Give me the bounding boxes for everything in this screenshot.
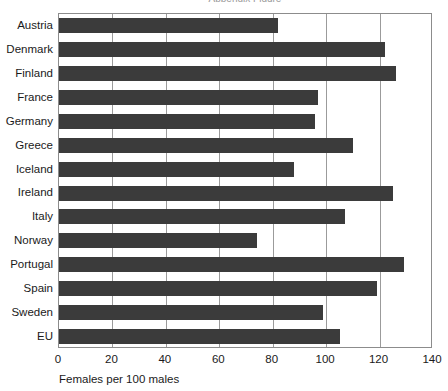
category-label-denmark: Denmark bbox=[0, 43, 53, 55]
category-label-eu: EU bbox=[0, 330, 53, 342]
bar-row bbox=[59, 253, 433, 277]
bar-row bbox=[59, 62, 433, 86]
category-label-iceland: Iceland bbox=[0, 163, 53, 175]
x-tick-60: 60 bbox=[198, 353, 238, 366]
bar-finland[interactable] bbox=[59, 66, 396, 81]
bar-row bbox=[59, 14, 433, 38]
x-tick-100: 100 bbox=[305, 353, 345, 366]
category-label-germany: Germany bbox=[0, 115, 53, 127]
category-label-greece: Greece bbox=[0, 139, 53, 151]
bar-eu[interactable] bbox=[59, 329, 340, 344]
bar-sweden[interactable] bbox=[59, 305, 323, 320]
bar-austria[interactable] bbox=[59, 18, 278, 33]
category-label-finland: Finland bbox=[0, 67, 53, 79]
category-label-norway: Norway bbox=[0, 234, 53, 246]
x-tick-140: 140 bbox=[412, 353, 448, 366]
bar-row bbox=[59, 205, 433, 229]
bar-row bbox=[59, 38, 433, 62]
bar-italy[interactable] bbox=[59, 209, 345, 224]
bar-norway[interactable] bbox=[59, 233, 257, 248]
bar-ireland[interactable] bbox=[59, 186, 393, 201]
x-tick-20: 20 bbox=[91, 353, 131, 366]
bar-denmark[interactable] bbox=[59, 42, 385, 57]
category-label-sweden: Sweden bbox=[0, 306, 53, 318]
x-tick-40: 40 bbox=[145, 353, 185, 366]
bar-row bbox=[59, 110, 433, 134]
bar-germany[interactable] bbox=[59, 114, 315, 129]
bar-row bbox=[59, 301, 433, 325]
plot-area bbox=[58, 13, 432, 348]
category-label-portugal: Portugal bbox=[0, 258, 53, 270]
x-tick-80: 80 bbox=[252, 353, 292, 366]
bar-row bbox=[59, 229, 433, 253]
bar-greece[interactable] bbox=[59, 138, 353, 153]
bar-row bbox=[59, 182, 433, 206]
category-label-austria: Austria bbox=[0, 19, 53, 31]
bar-spain[interactable] bbox=[59, 281, 377, 296]
bar-row bbox=[59, 86, 433, 110]
category-label-italy: Italy bbox=[0, 210, 53, 222]
bar-iceland[interactable] bbox=[59, 162, 294, 177]
bar-row bbox=[59, 325, 433, 349]
category-label-ireland: Ireland bbox=[0, 186, 53, 198]
clipped-chart-title: Appendix Figure bbox=[58, 0, 432, 2]
gridline-140 bbox=[433, 14, 434, 347]
bar-portugal[interactable] bbox=[59, 257, 404, 272]
x-tick-120: 120 bbox=[359, 353, 399, 366]
bar-row bbox=[59, 277, 433, 301]
x-axis-title: Females per 100 males bbox=[59, 373, 179, 386]
bar-row bbox=[59, 158, 433, 182]
category-label-france: France bbox=[0, 91, 53, 103]
x-tick-0: 0 bbox=[38, 353, 78, 366]
bar-row bbox=[59, 134, 433, 158]
category-label-spain: Spain bbox=[0, 282, 53, 294]
bar-france[interactable] bbox=[59, 90, 318, 105]
bar-chart: Appendix Figure AustriaDenmarkFinlandFra… bbox=[0, 0, 448, 391]
